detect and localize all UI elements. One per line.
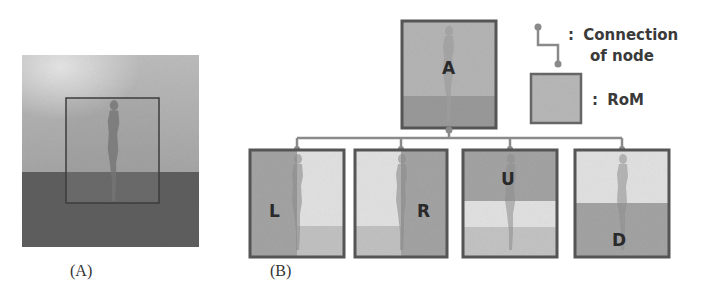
legend-rom-colon: : [592, 91, 598, 109]
panel-a-label: (A) [70, 262, 92, 280]
legend-connection-colon: : [568, 26, 574, 44]
panel-a-image [22, 55, 199, 247]
panel-b-label: (B) [270, 262, 291, 280]
legend-rom-label: : RoM [592, 91, 644, 109]
connection-dot-root [446, 127, 453, 134]
child-node-l: L [250, 150, 344, 257]
root-node-label: A [442, 58, 456, 78]
legend-connection-label: : Connection [568, 26, 678, 44]
child-node-d-label: D [612, 230, 626, 250]
panel-b: A L [250, 21, 678, 280]
tree-connectors [297, 129, 622, 149]
child-node-r-label: R [417, 201, 430, 221]
legend-connection-line2: of node [590, 47, 654, 65]
legend-connection-line1: Connection [583, 26, 678, 44]
child-node-d: D [575, 150, 669, 257]
legend-rom-text: RoM [607, 91, 644, 109]
legend: : Connection of node : RoM [531, 24, 678, 124]
rom-tree-figure: (A) A [0, 0, 708, 306]
child-node-r: R [355, 150, 447, 257]
legend-rom-icon [531, 74, 581, 123]
child-node-u-label: U [501, 169, 515, 189]
panel-a: (A) [22, 55, 199, 280]
legend-connection-icon [535, 24, 562, 68]
child-node-l-label: L [269, 201, 280, 221]
child-node-u: U [463, 150, 557, 257]
root-node-a: A [402, 21, 496, 128]
